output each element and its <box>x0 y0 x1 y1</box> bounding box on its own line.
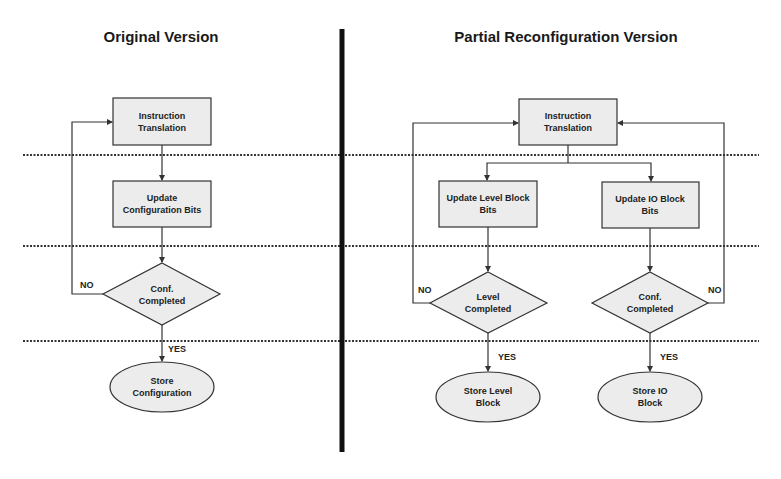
right-update-level-block-label: Update Level Block Bits <box>446 192 529 216</box>
right-store-level-block-label: Store Level Block <box>464 385 513 409</box>
label-line-2: Completed <box>627 303 674 315</box>
flowchart-comparison-diagram: Original Version Partial Reconfiguration… <box>0 0 781 479</box>
right-no-label-right: NO <box>708 285 722 295</box>
right-edge-branch-right <box>568 163 651 181</box>
label-line-1: Update IO Block <box>615 193 685 205</box>
right-instruction-translation-label: Instruction Translation <box>544 110 592 134</box>
label-line-1: Update Level Block <box>446 192 529 204</box>
right-conf-completed-label: Conf. Completed <box>627 291 674 315</box>
label-line-1: Conf. <box>139 283 186 295</box>
right-panel-title: Partial Reconfiguration Version <box>454 28 677 45</box>
label-line-1: Store Level <box>464 385 513 397</box>
right-yes-label-left: YES <box>498 352 516 362</box>
right-update-io-block-label: Update IO Block Bits <box>615 193 685 217</box>
left-yes-label: YES <box>168 344 186 354</box>
label-line-2: Bits <box>615 205 685 217</box>
right-level-completed-label: Level Completed <box>465 291 512 315</box>
right-flowchart <box>413 99 724 422</box>
right-yes-label-right: YES <box>660 352 678 362</box>
left-update-config-label: Update Configuration Bits <box>123 192 202 216</box>
label-line-2: Block <box>632 397 667 409</box>
right-no-label-left: NO <box>418 285 432 295</box>
label-line-2: Completed <box>139 295 186 307</box>
label-line-1: Store IO <box>632 385 667 397</box>
left-store-configuration-label: Store Configuration <box>133 375 192 399</box>
label-line-1: Update <box>123 192 202 204</box>
right-edge-branch-left <box>487 163 568 180</box>
label-line-1: Store <box>133 375 192 387</box>
label-line-2: Block <box>464 397 513 409</box>
label-line-2: Completed <box>465 303 512 315</box>
left-no-label: NO <box>80 280 94 290</box>
label-line-2: Configuration Bits <box>123 204 202 216</box>
left-flowchart <box>72 98 220 412</box>
label-line-2: Translation <box>544 122 592 134</box>
label-line-2: Translation <box>138 122 186 134</box>
label-line-1: Instruction <box>544 110 592 122</box>
label-line-1: Conf. <box>627 291 674 303</box>
right-store-io-block-label: Store IO Block <box>632 385 667 409</box>
left-panel-title: Original Version <box>103 28 218 45</box>
left-instruction-translation-label: Instruction Translation <box>138 110 186 134</box>
label-line-2: Bits <box>446 204 529 216</box>
label-line-2: Configuration <box>133 387 192 399</box>
label-line-1: Instruction <box>138 110 186 122</box>
left-conf-completed-label: Conf. Completed <box>139 283 186 307</box>
left-edge-no-loop <box>72 122 112 294</box>
label-line-1: Level <box>465 291 512 303</box>
